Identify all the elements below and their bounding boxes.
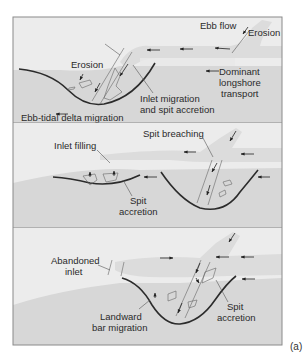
label-delta-migration: Ebb-tidal delta migration: [21, 112, 123, 123]
figure-label: (a): [290, 341, 302, 352]
label-inlet-migration-2: and spit accretion: [140, 104, 214, 115]
label-erosion-top: Erosion: [248, 27, 280, 38]
label-spit-breaching: Spit breaching: [143, 128, 204, 139]
tidal-inlet-migration-figure: Ebb flow Erosion Erosion Dominant longsh…: [0, 0, 307, 362]
label-landward-bar-1: Landward: [100, 311, 142, 322]
label-spit-accretion-2: accretion: [119, 206, 158, 217]
label-dominant-transport-3: transport: [221, 88, 259, 99]
label-spit-accretion-1: Spit: [130, 195, 147, 206]
label-dominant-transport-1: Dominant: [219, 66, 260, 77]
label-spit-accretion-2: accretion: [217, 312, 256, 323]
label-abandoned-inlet-1: Abandoned: [51, 255, 100, 266]
label-erosion-left: Erosion: [71, 59, 103, 70]
panel-1: Ebb flow Erosion Erosion Dominant longsh…: [13, 17, 282, 123]
label-ebb-flow: Ebb flow: [200, 20, 237, 31]
label-spit-accretion-1: Spit: [227, 301, 244, 312]
panel-2: Inlet filling Spit breaching Spit accret…: [13, 123, 282, 228]
label-inlet-filling: Inlet filling: [54, 140, 96, 151]
label-inlet-migration-1: Inlet migration: [140, 93, 200, 104]
label-landward-bar-2: bar migration: [92, 322, 147, 333]
label-dominant-transport-2: longshore: [219, 77, 261, 88]
label-abandoned-inlet-2: inlet: [65, 266, 83, 277]
panel-3: Abandoned inlet Landward bar migration S…: [13, 228, 282, 345]
